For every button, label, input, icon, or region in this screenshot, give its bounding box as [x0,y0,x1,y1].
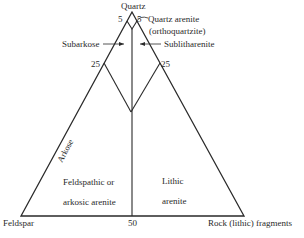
field-label-lithic: Lithic [162,176,184,186]
field-label-arkosic-arenite: arkosic arenite [63,197,116,207]
tick-label-25-left: 25 [91,59,101,69]
quartz-arenite-boundary [127,21,137,29]
field-label-orthoquartzite: (orthoquartzite) [149,26,205,36]
field-label-subarkose: Subarkose [62,39,100,49]
vertex-label-quartz: Quartz [121,1,146,11]
field-label-lithic-arenite: arenite [162,196,186,206]
tick-label-50: 50 [128,218,138,228]
sublitharenite-boundary [131,63,160,112]
vertex-label-rock-fragments: Rock (lithic) fragments [208,218,292,228]
subarkose-boundary [104,63,131,112]
vertex-label-feldspar: Feldspar [3,218,34,228]
field-label-feldspathic: Feldspathic or [63,177,114,187]
tick-label-5-right: 5 [137,14,142,24]
field-label-sublitharenite: Sublitharenite [164,39,215,49]
tick-label-25-right: 25 [161,59,171,69]
arrow-head-icon [140,42,145,46]
field-label-arkose: Arkose [55,137,75,164]
arrow-head-icon [119,42,124,46]
sandstone-classification-diagram: Quartz 5 5 Quartz arenite (orthoquartzit… [0,0,304,238]
field-label-quartz-arenite: Quartz arenite [148,14,199,24]
tick-label-5-left: 5 [118,14,123,24]
